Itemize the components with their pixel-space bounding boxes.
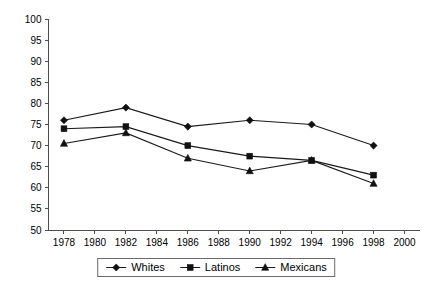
data-point	[247, 153, 253, 159]
y-tick-label: 55	[30, 203, 42, 214]
legend-item-whites[interactable]: Whites	[105, 262, 165, 273]
y-tick-label: 70	[30, 140, 42, 151]
data-point	[371, 172, 377, 178]
legend-label: Mexicans	[280, 262, 326, 273]
legend-label: Whites	[131, 262, 165, 273]
data-point	[60, 117, 67, 124]
series-line	[64, 127, 374, 176]
y-tick-label: 95	[30, 35, 42, 46]
x-tick-label: 1980	[84, 237, 107, 248]
y-tick-label: 80	[30, 98, 42, 109]
data-point	[308, 121, 315, 128]
data-point	[61, 126, 67, 132]
data-point	[122, 104, 129, 111]
data-point	[370, 142, 377, 149]
legend-item-mexicans[interactable]: Mexicans	[254, 262, 326, 273]
data-point	[184, 123, 191, 130]
series-mexicans	[60, 129, 377, 186]
chart-legend: WhitesLatinosMexicans	[97, 258, 335, 277]
x-tick-label: 1988	[208, 237, 231, 248]
y-tick-label: 100	[25, 14, 42, 25]
x-tick-label: 1986	[177, 237, 200, 248]
y-tick-label: 60	[30, 182, 42, 193]
series-whites	[60, 104, 377, 149]
x-tick-label: 1990	[239, 237, 262, 248]
x-tick-label: 1998	[362, 237, 385, 248]
series-line	[64, 133, 374, 184]
x-tick-label: 1982	[115, 237, 138, 248]
data-point	[246, 117, 253, 124]
diamond-marker-icon	[105, 262, 127, 273]
x-axis: 1978198019821984198619881990199219941996…	[49, 230, 421, 248]
x-tick-label: 1984	[146, 237, 169, 248]
data-point	[122, 129, 129, 136]
legend-item-latinos[interactable]: Latinos	[179, 262, 240, 273]
x-tick-label: 2000	[393, 237, 416, 248]
x-tick-label: 1996	[331, 237, 354, 248]
y-tick-label: 90	[30, 56, 42, 67]
y-tick-label: 85	[30, 77, 42, 88]
legend-label: Latinos	[205, 262, 240, 273]
triangle-marker-icon	[254, 262, 276, 273]
series-layer	[60, 104, 377, 186]
y-tick-label: 65	[30, 161, 42, 172]
x-tick-label: 1992	[270, 237, 293, 248]
square-marker-icon	[179, 262, 201, 273]
x-tick-label: 1994	[301, 237, 324, 248]
line-chart: 50556065707580859095100 1978198019821984…	[0, 0, 432, 292]
y-axis: 50556065707580859095100	[25, 14, 49, 236]
series-latinos	[61, 124, 376, 178]
y-tick-label: 50	[30, 225, 42, 236]
plot-area: 50556065707580859095100 1978198019821984…	[0, 0, 432, 292]
y-tick-label: 75	[30, 119, 42, 130]
data-point	[185, 143, 191, 149]
x-tick-label: 1978	[53, 237, 76, 248]
